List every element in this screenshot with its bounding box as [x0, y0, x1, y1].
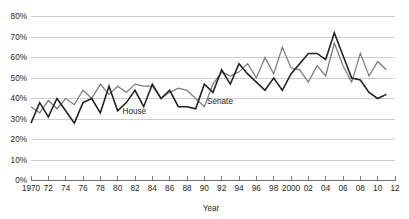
x-tick-label-06: 06: [338, 184, 348, 193]
x-tick-label-80: 80: [113, 184, 123, 193]
y-tick-label-30%: 30%: [11, 115, 27, 124]
x-tick-label-1970: 1970: [22, 184, 41, 193]
x-tick-label-88: 88: [182, 184, 192, 193]
x-tick-label-10: 10: [373, 184, 383, 193]
x-tick-label-82: 82: [130, 184, 140, 193]
y-tick-label-40%: 40%: [11, 94, 27, 103]
x-axis-line-and-ticks: [31, 176, 395, 181]
x-tick-label-08: 08: [356, 184, 366, 193]
gridlines: [31, 17, 395, 161]
y-axis-tick-labels: 0%10%20%30%40%50%60%70%80%: [11, 12, 27, 185]
line-chart: 0%10%20%30%40%50%60%70%80% 1970727476788…: [0, 0, 409, 219]
x-tick-label-12: 12: [390, 184, 400, 193]
y-tick-label-10%: 10%: [11, 156, 27, 165]
y-tick-label-50%: 50%: [11, 74, 27, 83]
x-tick-label-84: 84: [148, 184, 158, 193]
x-tick-label-96: 96: [252, 184, 262, 193]
y-tick-label-70%: 70%: [11, 33, 27, 42]
y-tick-label-20%: 20%: [11, 135, 27, 144]
x-tick-label-78: 78: [96, 184, 106, 193]
x-tick-label-98: 98: [269, 184, 279, 193]
x-tick-label-90: 90: [200, 184, 210, 193]
x-tick-label-2000: 2000: [282, 184, 301, 193]
series-annotation-house: House: [123, 107, 147, 116]
chart-canvas: 0%10%20%30%40%50%60%70%80% 1970727476788…: [0, 0, 409, 219]
y-tick-label-60%: 60%: [11, 53, 27, 62]
y-tick-label-80%: 80%: [11, 12, 27, 21]
x-tick-label-72: 72: [44, 184, 54, 193]
x-tick-label-76: 76: [78, 184, 88, 193]
x-axis-tick-labels: 1970727476788082848688909294969820000204…: [22, 184, 400, 193]
series-annotation-senate: Senate: [207, 97, 233, 106]
x-axis-title: Year: [203, 204, 220, 213]
x-tick-label-94: 94: [234, 184, 244, 193]
x-tick-label-02: 02: [304, 184, 314, 193]
x-tick-label-92: 92: [217, 184, 227, 193]
x-tick-label-86: 86: [165, 184, 175, 193]
x-tick-label-04: 04: [321, 184, 331, 193]
x-tick-label-74: 74: [61, 184, 71, 193]
